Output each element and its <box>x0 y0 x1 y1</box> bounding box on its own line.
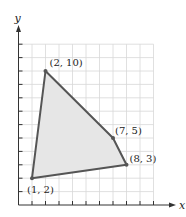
label-point-2-10: (2, 10) <box>50 57 83 68</box>
x-axis-label: x <box>179 199 186 212</box>
label-point-7-5: (7, 5) <box>115 125 142 136</box>
chart: (2, 10) (7, 5) (8, 3) (1, 2) x y <box>0 0 186 217</box>
label-point-1-2: (1, 2) <box>27 184 54 195</box>
label-point-8-3: (8, 3) <box>130 153 157 164</box>
y-axis-label: y <box>14 12 22 25</box>
